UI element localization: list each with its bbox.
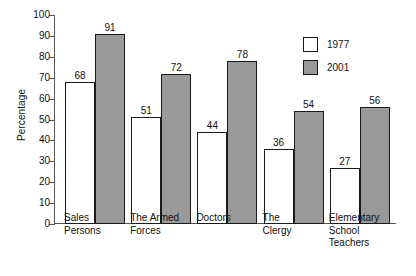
- bar-value-label: 68: [74, 70, 85, 82]
- y-axis-tick-label: 70: [24, 70, 50, 86]
- bar-value-label: 56: [369, 95, 380, 107]
- bar-1977-0: 68: [65, 82, 95, 224]
- bar-2001-1: 72: [161, 74, 191, 224]
- bar-value-label: 51: [141, 105, 152, 117]
- x-axis-label-3: The Clergy: [263, 212, 292, 237]
- legend-item-1977: 1977: [303, 33, 349, 56]
- bar-1977-2: 44: [197, 132, 227, 224]
- x-axis-label-0: Sales Persons: [64, 212, 101, 237]
- y-axis-tick-label: 10: [24, 195, 50, 211]
- y-axis-tick-label: 20: [24, 174, 50, 190]
- bar-value-label: 78: [237, 49, 248, 61]
- bar-2001-4: 56: [360, 107, 390, 224]
- bar-value-label: 27: [339, 156, 350, 168]
- bar-chart: Percentage 1009080706050403020100 689151…: [0, 0, 416, 276]
- bar-value-label: 44: [207, 120, 218, 132]
- bar-value-label: 91: [104, 22, 115, 34]
- white-square-icon: [303, 37, 318, 52]
- y-axis-tick-label: 90: [24, 28, 50, 44]
- bar-value-label: 72: [171, 62, 182, 74]
- gray-square-icon: [303, 60, 318, 75]
- y-axis-tick-label: 80: [24, 49, 50, 65]
- y-axis-tick-label: 100: [24, 7, 50, 23]
- x-axis-label-1: The Armed Forces: [130, 212, 179, 237]
- legend-item-2001: 2001: [303, 56, 349, 79]
- x-axis-label-4: Elementary School Teachers: [329, 212, 380, 250]
- y-axis-tick-label: 30: [24, 153, 50, 169]
- bar-2001-2: 78: [227, 61, 257, 224]
- legend-label: 2001: [327, 62, 349, 74]
- bar-2001-0: 91: [95, 34, 125, 224]
- bar-value-label: 54: [303, 99, 314, 111]
- y-axis-tick-label: 50: [24, 112, 50, 128]
- y-axis-tick-label: 0: [24, 216, 50, 232]
- bar-2001-3: 54: [294, 111, 324, 224]
- x-axis-label-2: Doctors: [196, 212, 230, 225]
- legend-label: 1977: [327, 39, 349, 51]
- bar-1977-1: 51: [131, 117, 161, 224]
- bar-value-label: 36: [273, 137, 284, 149]
- y-axis-tick-label: 60: [24, 91, 50, 107]
- legend: 1977 2001: [303, 33, 349, 79]
- y-axis-tick-label: 40: [24, 132, 50, 148]
